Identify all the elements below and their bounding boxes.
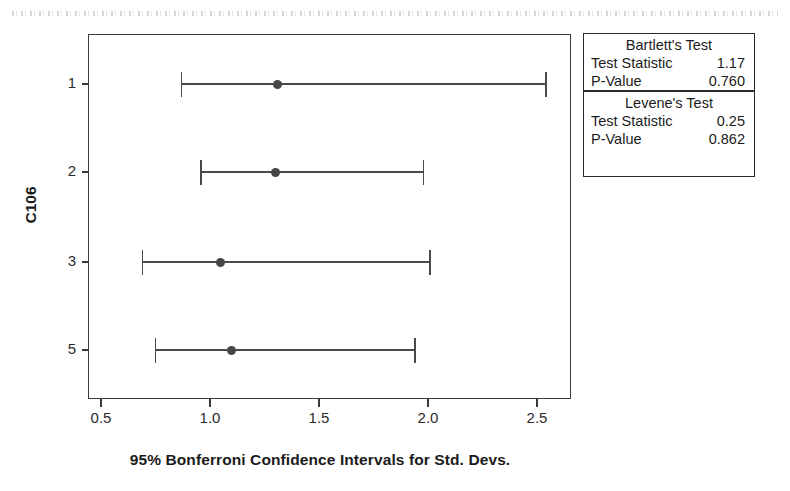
stats-row-label: Test Statistic — [591, 55, 672, 71]
x-axis-tick-label-1.0: 1.0 — [187, 409, 233, 426]
interval-center-marker — [273, 80, 282, 89]
stats-section-heading: Bartlett's Test — [584, 34, 754, 54]
x-axis-tick-mark — [318, 399, 320, 407]
interval-cap-lower — [155, 338, 157, 363]
x-axis-tick-mark — [536, 399, 538, 407]
stats-row: Test Statistic1.17 — [584, 54, 754, 72]
stats-row-label: P-Value — [591, 131, 642, 147]
y-axis-tick-mark — [82, 349, 89, 351]
stats-box: Bartlett's TestTest Statistic1.17P-Value… — [583, 33, 755, 177]
x-axis-title: 95% Bonferroni Confidence Intervals for … — [0, 451, 640, 469]
stats-section: Levene's TestTest Statistic0.25P-Value0.… — [584, 92, 754, 148]
stats-section: Bartlett's TestTest Statistic1.17P-Value… — [584, 34, 754, 90]
x-axis-tick-label-0.5: 0.5 — [78, 409, 124, 426]
interval-cap-lower — [142, 250, 144, 275]
y-axis-tick-mark — [82, 171, 89, 173]
y-axis-tick-label-2: 2 — [48, 162, 76, 179]
stats-row-label: Test Statistic — [591, 113, 672, 129]
x-axis-tick-label-2.5: 2.5 — [514, 409, 560, 426]
interval-cap-upper — [429, 250, 431, 275]
interval-cap-upper — [414, 338, 416, 363]
stats-row: P-Value0.862 — [584, 130, 754, 148]
x-axis-tick-mark — [209, 399, 211, 407]
y-axis-tick-label-3: 3 — [48, 252, 76, 269]
chart-page: 12350.51.01.52.02.5 C106 95% Bonferroni … — [0, 0, 790, 491]
y-axis-tick-mark — [82, 261, 89, 263]
interval-center-marker — [216, 258, 225, 267]
x-axis-tick-label-1.5: 1.5 — [296, 409, 342, 426]
plot-frame — [88, 34, 571, 399]
stats-section-heading: Levene's Test — [584, 92, 754, 112]
interval-cap-upper — [545, 72, 547, 97]
x-axis-tick-mark — [427, 399, 429, 407]
stats-row: Test Statistic0.25 — [584, 112, 754, 130]
x-axis-tick-label-2.0: 2.0 — [405, 409, 451, 426]
interval-cap-upper — [423, 160, 425, 185]
y-axis-title: C106 — [22, 165, 40, 245]
stats-row-value: 0.25 — [717, 113, 745, 129]
interval-line — [201, 171, 423, 172]
stats-row: P-Value0.760 — [584, 72, 754, 90]
x-axis-tick-mark — [100, 399, 102, 407]
interval-line — [182, 83, 546, 84]
stats-row-label: P-Value — [591, 73, 642, 89]
stats-row-value: 1.17 — [717, 55, 745, 71]
interval-line — [142, 261, 430, 262]
y-axis-tick-mark — [82, 83, 89, 85]
interval-line — [156, 349, 415, 350]
interval-center-marker — [227, 346, 236, 355]
stats-row-value: 0.862 — [709, 131, 745, 147]
interval-cap-lower — [200, 160, 202, 185]
interval-cap-lower — [181, 72, 183, 97]
interval-center-marker — [271, 168, 280, 177]
y-axis-tick-label-1: 1 — [48, 74, 76, 91]
y-axis-tick-label-5: 5 — [48, 340, 76, 357]
scan-noise-strip — [12, 11, 778, 16]
stats-row-value: 0.760 — [709, 73, 745, 89]
